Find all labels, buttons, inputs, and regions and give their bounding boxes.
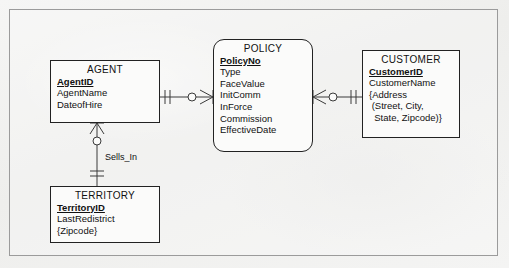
attribute-policyno: PolicyNo: [220, 55, 307, 67]
attribute-effectivedate: EffectiveDate: [220, 124, 307, 136]
entity-agent-attributes: AgentID AgentName DateofHire: [51, 76, 159, 111]
attribute-inforce: InForce: [220, 101, 307, 113]
attribute-address: {Address: [369, 89, 454, 101]
attribute-customerid: CustomerID: [369, 66, 454, 78]
entity-territory[interactable]: TERRITORY TerritoryID LastRedistrict {Zi…: [50, 186, 160, 243]
attribute-address-line2: (Street, City,: [369, 100, 454, 112]
entity-policy-title: POLICY: [214, 42, 312, 55]
entity-territory-attributes: TerritoryID LastRedistrict {Zipcode}: [51, 202, 159, 237]
attribute-facevalue: FaceValue: [220, 78, 307, 90]
attribute-dateofhire: DateofHire: [57, 99, 154, 111]
er-diagram-page: AGENT AgentID AgentName DateofHire POLIC…: [0, 0, 509, 268]
attribute-address-line3: State, Zipcode)}: [369, 112, 454, 124]
entity-policy-attributes: PolicyNo Type FaceValue InitComm InForce…: [214, 55, 312, 136]
entity-agent[interactable]: AGENT AgentID AgentName DateofHire: [50, 60, 160, 123]
entity-agent-title: AGENT: [51, 63, 159, 76]
attribute-zipcode: {Zipcode}: [57, 225, 154, 237]
entity-customer[interactable]: CUSTOMER CustomerID CustomerName {Addres…: [362, 50, 460, 138]
attribute-territoryid: TerritoryID: [57, 202, 154, 214]
attribute-type: Type: [220, 66, 307, 78]
entity-policy[interactable]: POLICY PolicyNo Type FaceValue InitComm …: [213, 39, 313, 152]
attribute-initcomm: InitComm: [220, 89, 307, 101]
attribute-lastredistrict: LastRedistrict: [57, 213, 154, 225]
attribute-agentname: AgentName: [57, 87, 154, 99]
attribute-customername: CustomerName: [369, 77, 454, 89]
attribute-agentid: AgentID: [57, 76, 154, 88]
entity-customer-attributes: CustomerID CustomerName {Address (Street…: [363, 66, 459, 124]
attribute-commission: Commission: [220, 113, 307, 125]
relationship-label-sells-in: Sells_In: [105, 152, 137, 162]
entity-customer-title: CUSTOMER: [363, 53, 459, 66]
entity-territory-title: TERRITORY: [51, 189, 159, 202]
